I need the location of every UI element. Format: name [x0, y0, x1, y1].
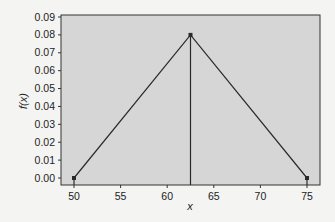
y-tick-label: 0.02 [35, 136, 56, 148]
x-axis-label: x [186, 200, 193, 212]
x-tick-label: 70 [255, 190, 267, 202]
y-tick-label: 0.01 [35, 154, 56, 166]
y-axis: 0.000.010.020.030.040.050.060.070.080.09 [35, 11, 61, 184]
y-tick-label: 0.06 [35, 64, 56, 76]
y-tick-label: 0.03 [35, 118, 56, 130]
x-tick-label: 65 [208, 190, 220, 202]
y-tick-label: 0.07 [35, 46, 56, 58]
y-tick-label: 0.08 [35, 28, 56, 40]
y-tick-label: 0.04 [35, 100, 56, 112]
x-tick-label: 75 [301, 190, 313, 202]
plot-area [61, 15, 320, 185]
y-tick-label: 0.00 [35, 172, 56, 184]
y-axis-label: f(x) [17, 93, 29, 109]
y-tick-label: 0.09 [35, 11, 56, 23]
y-tick-label: 0.05 [35, 82, 56, 94]
x-tick-label: 55 [115, 190, 127, 202]
triangular-density-chart: 0.000.010.020.030.040.050.060.070.080.09… [0, 0, 335, 222]
x-tick-label: 60 [161, 190, 173, 202]
x-tick-label: 50 [68, 190, 80, 202]
